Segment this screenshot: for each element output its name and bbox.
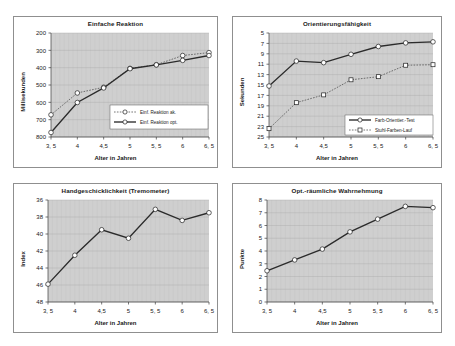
data-point	[320, 247, 325, 252]
chart-handgeschicklichkeit[interactable]: Handgeschicklichkeit (Tremometer) Index …	[13, 183, 218, 333]
x-tick-label: 3, 5	[43, 308, 54, 314]
data-point	[349, 52, 354, 57]
y-tick-label: 600	[36, 100, 47, 106]
x-tick-label: 3, 5	[262, 308, 273, 314]
y-tick-label: 9	[261, 51, 265, 57]
y-tick-label: 5	[259, 235, 263, 241]
x-tick-label: 4	[73, 308, 77, 314]
data-point	[403, 204, 408, 209]
x-tick-label: 6, 5	[428, 143, 439, 149]
legend-label: Einf. Reaktion ak.	[140, 110, 176, 115]
legend-label: Einf. Reaktion opt.	[140, 120, 178, 125]
x-tick-label: 5, 5	[151, 143, 162, 149]
data-point	[128, 66, 133, 71]
legend-marker	[358, 118, 362, 122]
data-point	[73, 253, 78, 258]
data-point	[49, 113, 54, 118]
y-tick-label: 800	[36, 134, 47, 140]
y-tick-label: 400	[36, 65, 47, 71]
y-tick-label: 42	[36, 248, 43, 254]
y-tick-label: 11	[258, 61, 265, 67]
data-point	[267, 127, 271, 131]
y-tick-label: 40	[36, 231, 43, 237]
y-tick-label: 300	[36, 48, 47, 54]
y-tick-label: 48	[36, 299, 43, 305]
y-tick-label: 500	[36, 82, 47, 88]
legend	[110, 105, 208, 129]
data-point	[154, 63, 159, 68]
legend-label: Farb-Orientier.-Test	[375, 118, 415, 123]
y-tick-label: 44	[36, 265, 43, 271]
y-tick-label: 4	[259, 248, 263, 254]
legend-label: Stuhl-Farben-Lauf	[375, 128, 413, 133]
y-tick-label: 15	[257, 82, 264, 88]
y-tick-label: 17	[257, 93, 264, 99]
y-tick-label: 0	[259, 299, 263, 305]
plot-area: 363840424446483, 544,555, 566, 5	[14, 184, 219, 334]
charts-sheet: Einfache Reaktion Millisekunden Alter in…	[0, 0, 455, 346]
data-point	[207, 53, 212, 58]
x-tick-label: 4	[76, 143, 80, 149]
x-tick-label: 4,5	[318, 308, 327, 314]
data-point	[294, 59, 299, 64]
y-tick-label: 2	[259, 274, 263, 280]
y-tick-label: 1	[259, 286, 263, 292]
y-tick-label: 23	[257, 124, 264, 130]
plot-area: 0123456783, 544,555, 566, 5	[233, 184, 443, 334]
data-point	[294, 101, 298, 105]
legend-marker	[123, 120, 127, 124]
y-tick-label: 5	[261, 30, 265, 36]
y-tick-label: 25	[257, 134, 264, 140]
data-point	[403, 41, 408, 46]
y-tick-label: 8	[259, 197, 263, 203]
y-tick-label: 36	[36, 197, 43, 203]
y-tick-label: 700	[36, 117, 47, 123]
x-tick-label: 5	[349, 143, 353, 149]
y-tick-label: 38	[36, 214, 43, 220]
x-tick-label: 3, 5	[46, 143, 57, 149]
x-tick-label: 6, 5	[428, 308, 439, 314]
plot-area: 2003004005006007008003, 544,555, 566, 5E…	[14, 17, 219, 169]
data-point	[431, 40, 436, 45]
data-point	[180, 58, 185, 63]
data-point	[376, 75, 380, 79]
data-point	[375, 217, 380, 222]
data-point	[348, 230, 353, 235]
x-tick-label: 4,5	[99, 143, 108, 149]
data-point	[99, 227, 104, 232]
x-tick-label: 6	[181, 143, 185, 149]
x-tick-label: 5, 5	[373, 308, 384, 314]
x-tick-label: 5	[128, 143, 132, 149]
y-tick-label: 6	[259, 223, 263, 229]
data-point	[404, 63, 408, 67]
y-tick-label: 19	[257, 103, 264, 109]
x-tick-label: 5	[127, 308, 131, 314]
data-point	[101, 86, 106, 91]
data-point	[265, 268, 270, 273]
x-tick-label: 6	[404, 143, 408, 149]
data-point	[180, 53, 185, 58]
data-point	[126, 236, 131, 241]
y-tick-label: 7	[261, 41, 265, 47]
x-tick-label: 3, 5	[264, 143, 275, 149]
chart-orientierungsfaehigkeit[interactable]: Orientierungsfähigkeit Sekunden Alter in…	[232, 16, 442, 168]
y-tick-label: 7	[259, 210, 263, 216]
chart-opt-raeumliche-wahrnehmung[interactable]: Opt.-räumliche Wahrnehmung Punkte Alter …	[232, 183, 442, 333]
x-tick-label: 6, 5	[204, 143, 215, 149]
data-point	[292, 258, 297, 263]
x-tick-label: 4	[295, 143, 299, 149]
x-tick-label: 6, 5	[204, 308, 215, 314]
legend-marker	[358, 128, 362, 132]
x-tick-label: 4,5	[319, 143, 328, 149]
data-point	[267, 84, 272, 89]
chart-einfache-reaktion[interactable]: Einfache Reaktion Millisekunden Alter in…	[13, 16, 218, 168]
x-tick-label: 5	[348, 308, 352, 314]
data-point	[180, 218, 185, 223]
data-point	[431, 205, 436, 210]
y-tick-label: 3	[259, 261, 263, 267]
x-tick-label: 5, 5	[150, 308, 161, 314]
y-tick-label: 200	[36, 30, 47, 36]
y-tick-label: 46	[36, 282, 43, 288]
x-tick-label: 6	[404, 308, 408, 314]
data-point	[321, 60, 326, 65]
